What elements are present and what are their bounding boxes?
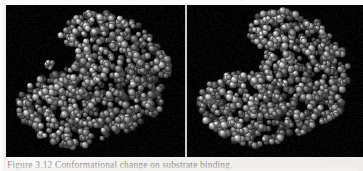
- figure-page: Figure 3.12 Conformational change on sub…: [0, 0, 363, 171]
- molecule-render-closed: [187, 5, 363, 157]
- panel-closed-conformation: [187, 5, 363, 157]
- panel-divider: [185, 5, 187, 157]
- figure-image-box: [6, 5, 363, 157]
- figure-caption: Figure 3.12 Conformational change on sub…: [7, 160, 359, 171]
- page-left-margin: [0, 0, 6, 171]
- molecule-render-open: [6, 5, 185, 157]
- panel-open-conformation: [6, 5, 185, 157]
- page-top-margin: [0, 0, 363, 5]
